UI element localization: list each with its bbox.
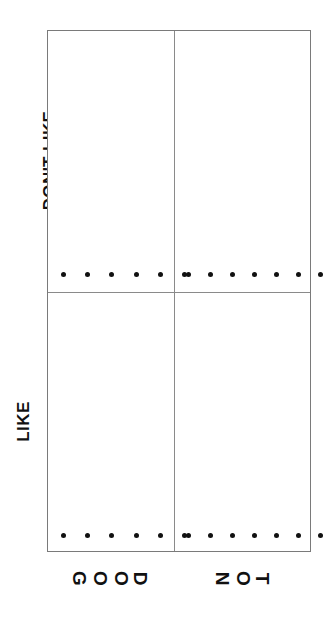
chart-figure: DON'T LIKE LIKE GOOD NOT	[0, 0, 330, 619]
x-axis-label-letter: D	[132, 571, 151, 585]
x-axis-label-letter: O	[234, 571, 253, 586]
y-axis-label-dont-like: DON'T LIKE	[0, 30, 46, 291]
data-point	[208, 272, 213, 277]
data-point	[61, 533, 66, 538]
data-point	[158, 533, 163, 538]
panel-dontlike-good	[48, 31, 174, 292]
data-point	[318, 272, 323, 277]
data-point	[296, 272, 301, 277]
data-point-row	[48, 272, 196, 277]
data-point	[208, 533, 213, 538]
x-axis-label-letter: O	[111, 571, 130, 586]
x-axis-label-not: NOT	[174, 558, 311, 598]
data-point-row	[48, 533, 196, 538]
data-point	[230, 272, 235, 277]
panel-dontlike-not	[175, 31, 312, 292]
data-point	[274, 272, 279, 277]
data-point	[318, 533, 323, 538]
data-point	[134, 272, 139, 277]
x-axis-label-letter: O	[91, 571, 110, 586]
data-point	[109, 272, 114, 277]
panel-like-good	[48, 293, 174, 553]
data-point	[134, 533, 139, 538]
x-axis-label-letter: G	[70, 571, 89, 586]
data-point-row	[175, 533, 330, 538]
data-point	[230, 533, 235, 538]
data-point	[274, 533, 279, 538]
x-axis-label-letter: T	[253, 572, 272, 584]
data-point	[61, 272, 66, 277]
panel-like-not	[175, 293, 312, 553]
data-point	[186, 533, 191, 538]
data-point	[109, 533, 114, 538]
x-axis-label-letter: N	[214, 571, 233, 585]
data-point	[252, 533, 257, 538]
data-point	[85, 272, 90, 277]
x-axis-label-good: GOOD	[47, 558, 173, 598]
data-point	[252, 272, 257, 277]
plot-frame	[47, 30, 311, 552]
data-point	[85, 533, 90, 538]
data-point	[158, 272, 163, 277]
y-axis-label-like: LIKE	[0, 291, 46, 552]
data-point	[296, 533, 301, 538]
data-point	[186, 272, 191, 277]
data-point-row	[175, 272, 330, 277]
